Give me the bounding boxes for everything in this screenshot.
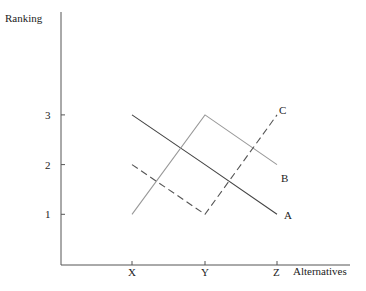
x-tick-label: Y: [201, 266, 209, 278]
series-label-b: B: [281, 172, 288, 184]
ranking-chart: Ranking Alternatives 123 XYZ ABC: [0, 0, 366, 291]
x-axis-label: Alternatives: [293, 265, 347, 277]
axes: [61, 12, 350, 265]
y-tick-label: 3: [45, 109, 51, 121]
y-tick-label: 1: [45, 208, 51, 220]
series-line-a: [132, 115, 277, 214]
y-tick-label: 2: [45, 159, 51, 171]
y-axis-label: Ranking: [5, 12, 43, 24]
y-ticks: 123: [45, 109, 65, 220]
x-ticks: XYZ: [128, 261, 280, 278]
series-label-c: C: [279, 104, 286, 116]
x-tick-label: Z: [273, 266, 280, 278]
series-label-a: A: [284, 209, 292, 221]
x-tick-label: X: [128, 266, 136, 278]
series-lines: ABC: [132, 104, 292, 221]
